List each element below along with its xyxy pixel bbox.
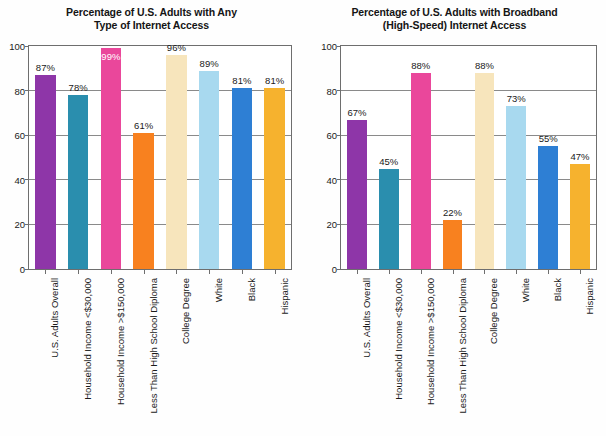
bar: [35, 75, 55, 269]
x-axis-category-label: Household Income >$150,000: [425, 278, 436, 405]
bar-slot: 45%Household Income <$30,000: [373, 46, 405, 269]
bar-value-label: 88%: [475, 60, 494, 71]
bar: [506, 106, 526, 269]
x-axis-category-label: Hispanic: [584, 278, 595, 314]
x-axis-category-label: White: [213, 278, 224, 302]
x-axis-tick-mark: [45, 269, 46, 274]
bar: [538, 146, 558, 269]
bar-value-label: 67%: [347, 107, 366, 118]
bar-slot: 96%College Degree: [160, 46, 193, 269]
x-axis-tick-mark: [548, 269, 549, 274]
chart-page: Percentage of U.S. Adults with Any Type …: [0, 0, 606, 436]
bar-value-label: 61%: [134, 120, 153, 131]
bar-slot: 81%Hispanic: [258, 46, 291, 269]
bar: [264, 88, 284, 269]
bar: [166, 55, 186, 269]
y-axis-tick-label: 60: [326, 130, 337, 141]
bar-slot: 89%White: [193, 46, 226, 269]
bar-value-label: 81%: [265, 75, 284, 86]
bar-slot: 22%Less Than High School Diploma: [437, 46, 469, 269]
x-axis-category-label: College Degree: [488, 278, 499, 344]
x-axis-tick-mark: [484, 269, 485, 274]
bar: [570, 164, 590, 269]
chart-title-right-line2: (High-Speed) Internet Access: [311, 19, 598, 32]
x-axis-tick-mark: [275, 269, 276, 274]
y-axis-tick-label: 60: [14, 130, 25, 141]
bar-value-label: 89%: [200, 58, 219, 69]
bar: [411, 73, 431, 269]
bar-slot: 47%Hispanic: [564, 46, 596, 269]
bar: [475, 73, 495, 269]
bar-slot: 67%U.S. Adults Overall: [341, 46, 373, 269]
x-axis-category-label: Household Income <$30,000: [393, 278, 404, 400]
y-axis-tick-label: 40: [14, 174, 25, 185]
chart-title-right: Percentage of U.S. Adults with Broadband…: [311, 6, 598, 32]
bar-value-label: 22%: [443, 207, 462, 218]
bar-value-label: 88%: [411, 60, 430, 71]
x-axis-category-label: Black: [246, 278, 257, 301]
x-axis-tick-mark: [516, 269, 517, 274]
bar: [232, 88, 252, 269]
chart-title-left: Percentage of U.S. Adults with Any Type …: [8, 6, 295, 32]
chart-panel-broadband: Percentage of U.S. Adults with Broadband…: [303, 0, 606, 436]
y-axis-tick-label: 80: [14, 85, 25, 96]
y-axis-tick-label: 20: [326, 219, 337, 230]
x-axis-category-label: Hispanic: [279, 278, 290, 314]
y-axis-tick-label: 20: [14, 219, 25, 230]
x-axis-tick-mark: [580, 269, 581, 274]
bar-value-label: 45%: [379, 156, 398, 167]
x-axis-tick-mark: [144, 269, 145, 274]
bar-slot: 61%Less Than High School Diploma: [127, 46, 160, 269]
bar-slot: 78%Household Income <$30,000: [62, 46, 95, 269]
x-axis-tick-mark: [389, 269, 390, 274]
bar-slot: 99%Household Income >$150,000: [95, 46, 128, 269]
bar-slot: 88%College Degree: [469, 46, 501, 269]
y-axis-tick-label: 100: [321, 41, 337, 52]
x-axis-category-label: Household Income >$150,000: [115, 278, 126, 405]
x-axis-tick-mark: [209, 269, 210, 274]
bar-slot: 81%Black: [226, 46, 259, 269]
chart-title-right-line1: Percentage of U.S. Adults with Broadband: [351, 6, 557, 18]
y-axis-tick-label: 100: [9, 41, 25, 52]
bar: [199, 71, 219, 269]
x-axis-category-label: U.S. Adults Overall: [49, 278, 60, 358]
x-axis-tick-mark: [453, 269, 454, 274]
bar-value-label: 55%: [539, 133, 558, 144]
bar-value-label: 99%: [101, 51, 120, 62]
x-axis-tick-mark: [421, 269, 422, 274]
bar: [347, 120, 367, 269]
x-axis-category-label: Black: [552, 278, 563, 301]
bar-slot: 55%Black: [532, 46, 564, 269]
plot-area-right: 02040608010067%U.S. Adults Overall45%Hou…: [340, 45, 597, 270]
x-axis-category-label: U.S. Adults Overall: [361, 278, 372, 358]
bar-slot: 73%White: [500, 46, 532, 269]
bar: [379, 169, 399, 269]
x-axis-category-label: Household Income <$30,000: [82, 278, 93, 400]
bar-value-label: 47%: [571, 151, 590, 162]
bar: [101, 48, 121, 269]
bar: [68, 95, 88, 269]
bar: [443, 220, 463, 269]
bar: [133, 133, 153, 269]
bar-value-label: 73%: [507, 93, 526, 104]
x-axis-tick-mark: [78, 269, 79, 274]
bar-value-label: 78%: [69, 82, 88, 93]
bar-slot: 87%U.S. Adults Overall: [29, 46, 62, 269]
x-axis-tick-mark: [111, 269, 112, 274]
x-axis-category-label: Less Than High School Diploma: [148, 278, 159, 414]
x-axis-category-label: College Degree: [180, 278, 191, 344]
y-axis-tick-label: 80: [326, 85, 337, 96]
chart-panel-internet-access: Percentage of U.S. Adults with Any Type …: [0, 0, 303, 436]
y-axis-tick-label: 40: [326, 174, 337, 185]
chart-title-left-line2: Type of Internet Access: [8, 19, 295, 32]
bar-slot: 88%Household Income >$150,000: [405, 46, 437, 269]
x-axis-category-label: Less Than High School Diploma: [457, 278, 468, 414]
bar-value-label: 81%: [232, 75, 251, 86]
x-axis-tick-mark: [357, 269, 358, 274]
x-axis-category-label: White: [520, 278, 531, 302]
x-axis-tick-mark: [176, 269, 177, 274]
plot-area-left: 02040608010087%U.S. Adults Overall78%Hou…: [28, 45, 292, 270]
chart-title-left-line1: Percentage of U.S. Adults with Any: [66, 6, 237, 18]
x-axis-tick-mark: [242, 269, 243, 274]
bar-value-label: 87%: [36, 62, 55, 73]
